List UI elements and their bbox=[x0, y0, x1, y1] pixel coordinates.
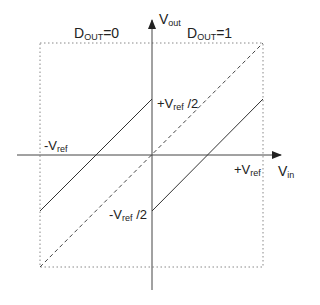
dout1-label: DOUT=1 bbox=[187, 26, 232, 42]
pos-vref-label: +Vref bbox=[234, 163, 261, 178]
dout0-label: DOUT=0 bbox=[74, 26, 119, 42]
neg-vref-label: -Vref bbox=[44, 139, 68, 154]
pos-vref-half-label: +Vref /2 bbox=[157, 97, 198, 112]
vin-axis-label: Vin bbox=[278, 164, 294, 180]
neg-vref-half-label: -Vref /2 bbox=[109, 208, 147, 223]
vout-axis-label: Vout bbox=[159, 12, 181, 28]
